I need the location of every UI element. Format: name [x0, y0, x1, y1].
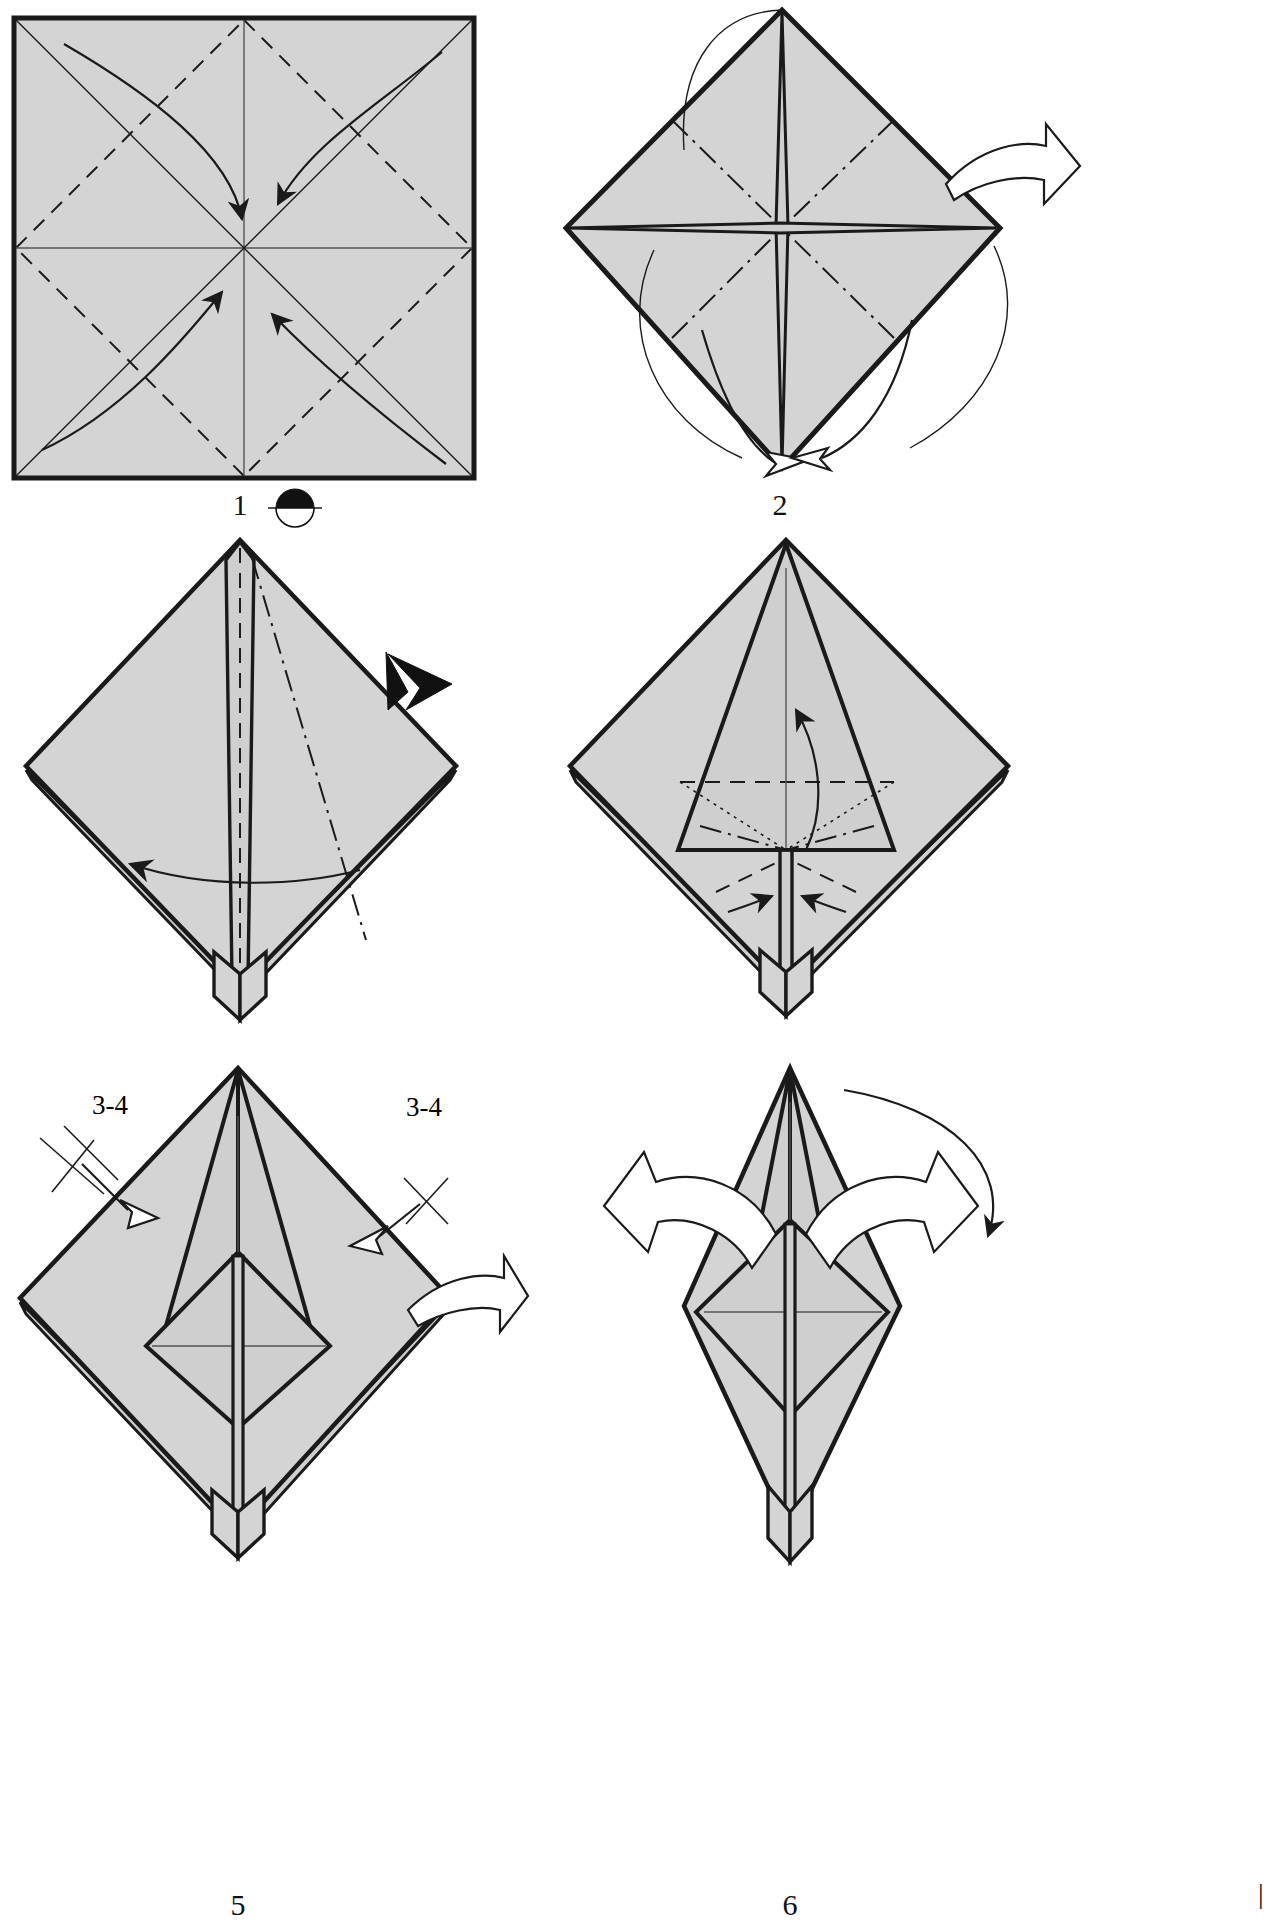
center-band	[780, 850, 792, 982]
step-4-diagram	[556, 534, 1046, 1034]
center-band	[233, 1256, 243, 1522]
step-3-diagram	[8, 534, 488, 1034]
repeat-arrow-left-line	[82, 1164, 128, 1210]
center-band	[785, 1224, 795, 1522]
turn-over-arrow-icon	[408, 1256, 528, 1332]
symbol-open-half	[276, 508, 314, 527]
step-6-svg	[600, 1056, 1100, 1566]
step-2-svg	[560, 0, 1080, 500]
step-3-svg	[8, 534, 488, 1034]
step-5-number: 5	[208, 1888, 268, 1922]
step-2-diagram	[560, 0, 1080, 500]
repeat-label-left: 3-4	[92, 1090, 128, 1121]
repeat-label-right: 3-4	[406, 1092, 442, 1123]
step-1-svg	[10, 14, 480, 484]
step-1-diagram	[10, 14, 480, 484]
symbol-filled-half	[276, 489, 314, 508]
page-corner-mark: |	[1258, 1878, 1264, 1910]
step-5-diagram	[8, 1060, 528, 1570]
step-6-number: 6	[760, 1888, 820, 1922]
step-5-svg	[8, 1060, 528, 1570]
repeat-arrow-right-line	[380, 1204, 420, 1236]
step-2-number: 2	[750, 488, 810, 522]
half-black-circle-icon	[262, 484, 328, 532]
step-6-diagram	[600, 1056, 1100, 1566]
step-1-symbol-turn-over-rotate	[262, 484, 328, 532]
turn-over-arrow-icon	[946, 124, 1080, 204]
origami-instruction-page: 1	[0, 0, 1276, 1922]
step-1-number: 1	[210, 488, 270, 522]
step-4-svg	[556, 534, 1046, 1034]
repeat-tick-a-2	[52, 1140, 94, 1192]
